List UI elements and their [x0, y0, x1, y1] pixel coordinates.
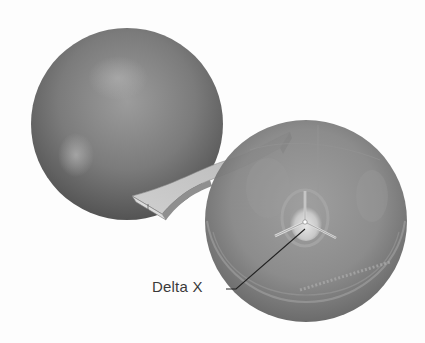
delta-x-label: Delta X [152, 278, 203, 295]
diagram-scene [0, 0, 425, 343]
